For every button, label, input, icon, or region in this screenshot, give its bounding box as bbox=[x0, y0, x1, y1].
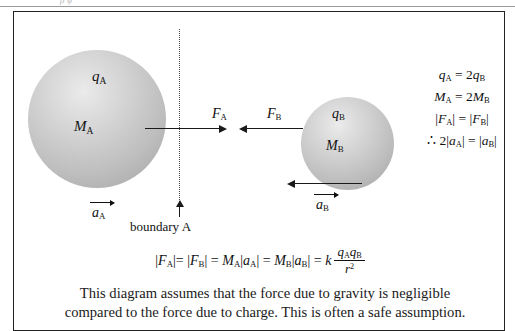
main-eq-eq3: = bbox=[259, 253, 274, 268]
main-eq-ma: M bbox=[222, 253, 234, 268]
relation-charge-rhs-sub: B bbox=[480, 73, 486, 83]
coulomb-fraction-numerator: qAqB bbox=[334, 244, 364, 261]
main-eq-mb: M bbox=[274, 253, 286, 268]
force-b-label: FB bbox=[267, 107, 282, 121]
main-eq-ab-sub: B bbox=[302, 259, 308, 269]
main-eq-fa: F bbox=[158, 253, 167, 268]
relation-accel-bar-close2: | bbox=[494, 133, 497, 148]
main-eq-ab: a bbox=[295, 253, 302, 268]
force-b-arrow-shaft bbox=[246, 128, 303, 129]
main-eq-k: k bbox=[325, 253, 331, 268]
coulomb-fraction-denominator: r2 bbox=[334, 261, 364, 277]
relation-force-op: = bbox=[455, 111, 469, 126]
force-b-arrowhead bbox=[239, 125, 247, 133]
accel-b-arrowhead bbox=[287, 180, 295, 188]
relation-charge-op: = 2 bbox=[452, 67, 473, 82]
accel-b-arrow-shaft bbox=[294, 183, 362, 184]
sphere-b bbox=[301, 97, 394, 190]
relation-mass-lhs-sub: A bbox=[446, 95, 452, 105]
main-eq-fb-sub: B bbox=[199, 259, 205, 269]
sphere-a-mass-symbol: M bbox=[74, 118, 87, 134]
sphere-b-charge-subscript: B bbox=[339, 112, 345, 122]
sphere-a-charge-subscript: A bbox=[100, 76, 107, 86]
relation-force-rhs-sub: B bbox=[480, 117, 486, 127]
relation-accel-prefix: ∴ 2 bbox=[427, 133, 446, 148]
relation-accel-op: = bbox=[465, 133, 479, 148]
force-a-arrowhead bbox=[219, 125, 227, 133]
relations-block: qA = 2qB MA = 2MB |FA| = |FB| ∴ 2|aA| = … bbox=[410, 64, 514, 151]
main-eq-mb-sub: B bbox=[286, 259, 292, 269]
relation-force-lhs-sub: A bbox=[446, 117, 452, 127]
relation-force-lhs: F bbox=[438, 111, 446, 126]
figure-frame: boundary A qA MA qB MB FA FB aA bbox=[13, 11, 505, 331]
accel-b-vector-overbar bbox=[314, 194, 338, 195]
relation-accel-lhs: a bbox=[449, 133, 456, 148]
relation-charge-lhs: q bbox=[439, 67, 446, 82]
force-a-label: FA bbox=[212, 107, 227, 121]
relation-mass-op: = 2 bbox=[452, 89, 473, 104]
sphere-b-charge-symbol: q bbox=[332, 106, 339, 121]
figure-caption-line-1: This diagram assumes that the force due … bbox=[30, 284, 500, 303]
sphere-a-mass-label: MA bbox=[74, 119, 94, 134]
sphere-a-mass-subscript: A bbox=[87, 126, 94, 136]
accel-b-symbol: a bbox=[316, 197, 323, 212]
accel-b-label: aB bbox=[316, 198, 329, 212]
boundary-pointer-arrowhead bbox=[176, 200, 184, 207]
force-b-symbol: F bbox=[267, 106, 276, 121]
force-a-symbol: F bbox=[212, 106, 221, 121]
sphere-b-mass-label: MB bbox=[326, 139, 344, 153]
relation-force-bar-close2: | bbox=[486, 111, 489, 126]
relation-mass-lhs: M bbox=[434, 89, 445, 104]
boundary-a-caption: boundary A bbox=[130, 219, 191, 235]
force-a-arrow-shaft bbox=[145, 128, 220, 129]
relation-mass-rhs-sub: B bbox=[484, 95, 490, 105]
accel-a-subscript: A bbox=[99, 211, 106, 221]
main-eq-ma-sub: A bbox=[234, 259, 240, 269]
relation-charge-rhs: q bbox=[473, 67, 480, 82]
clipped-top-text-label: ρ ϕ bbox=[60, 0, 72, 5]
figure-caption-line-2: compared to the force due to charge. Thi… bbox=[30, 303, 500, 322]
relation-accel-lhs-sub: A bbox=[456, 139, 462, 149]
sphere-b-mass-subscript: B bbox=[338, 144, 344, 154]
main-eq-fb: F bbox=[190, 253, 199, 268]
accel-a-vector-overbar bbox=[90, 202, 114, 203]
force-b-subscript: B bbox=[276, 112, 282, 122]
sphere-b-mass-symbol: M bbox=[326, 138, 338, 153]
figure-caption: This diagram assumes that the force due … bbox=[30, 284, 500, 323]
coulomb-fraction: qAqBr2 bbox=[334, 244, 364, 277]
relation-mass-rhs: M bbox=[473, 89, 484, 104]
accel-a-label: aA bbox=[92, 206, 106, 220]
main-eq-fa-sub: A bbox=[167, 259, 173, 269]
accel-a-symbol: a bbox=[92, 205, 99, 220]
sphere-a-charge-label: qA bbox=[92, 69, 107, 84]
accel-b-subscript: B bbox=[323, 203, 329, 213]
main-equation: |FA|= |FB| = MA|aA| = MB|aB| = kqAqBr2 bbox=[14, 245, 506, 278]
relation-accel: ∴ 2|aA| = |aB| bbox=[410, 130, 514, 152]
force-a-subscript: A bbox=[221, 112, 228, 122]
boundary-a-dotted-line bbox=[179, 29, 180, 204]
relation-mass: MA = 2MB bbox=[410, 86, 514, 108]
relation-accel-rhs-sub: B bbox=[488, 139, 494, 149]
main-eq-eq4: = bbox=[310, 253, 325, 268]
sphere-b-charge-label: qB bbox=[332, 107, 345, 121]
sphere-a-charge-symbol: q bbox=[92, 68, 100, 84]
relation-charge-lhs-sub: A bbox=[446, 73, 452, 83]
main-eq-aa-sub: A bbox=[250, 259, 256, 269]
relation-force: |FA| = |FB| bbox=[410, 108, 514, 130]
relation-charge: qA = 2qB bbox=[410, 64, 514, 86]
main-eq-eq1: = bbox=[176, 253, 187, 268]
main-eq-eq2: = bbox=[207, 253, 222, 268]
top-horizontal-rule bbox=[0, 6, 515, 7]
